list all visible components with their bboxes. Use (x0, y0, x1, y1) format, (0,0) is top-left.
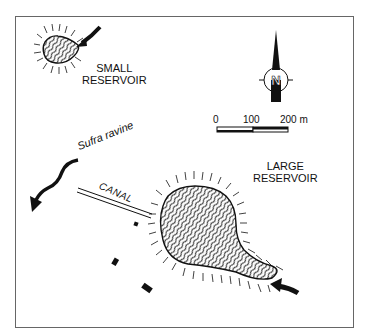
scale-label-0: 0 (213, 114, 219, 125)
small-reservoir (34, 24, 83, 74)
small-reservoir-label-line1: SMALL (82, 62, 147, 74)
small-reservoir-label: SMALL RESERVOIR (82, 62, 147, 86)
site-marker (133, 221, 138, 226)
small-reservoir-label-line2: RESERVOIR (82, 74, 147, 86)
large-reservoir-label-line1: LARGE (253, 160, 318, 172)
ravine-flow-arrow-icon (30, 160, 78, 212)
large-reservoir-label: LARGE RESERVOIR (253, 160, 318, 184)
site-marker (141, 283, 153, 294)
reservoir-map: SMALL RESERVOIR LARGE RESERVOIR N 0 100 … (0, 0, 369, 336)
inflow-arrow-icon (270, 278, 298, 293)
scale-bar (217, 127, 288, 132)
north-label: N (269, 73, 283, 88)
large-reservoir-label-line2: RESERVOIR (253, 172, 318, 184)
inflow-arrow-icon (76, 27, 100, 47)
scale-label-100: 100 (243, 114, 260, 125)
scale-label-200: 200 m (280, 114, 308, 125)
site-marker (111, 257, 119, 266)
north-arrow-icon (259, 30, 293, 102)
large-reservoir (148, 171, 283, 292)
